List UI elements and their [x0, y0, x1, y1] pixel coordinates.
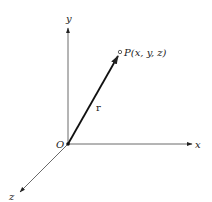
coordinate-diagram: y x z O r P(x, y, z) [0, 0, 212, 202]
point-p-marker [118, 50, 121, 53]
point-p-label: P(x, y, z) [123, 47, 167, 58]
origin-label: O [56, 139, 64, 150]
position-vector-r [68, 56, 118, 144]
origin-point [66, 142, 70, 146]
z-axis-label: z [8, 191, 15, 202]
vector-label: r [96, 102, 101, 113]
x-axis-label: x [195, 139, 201, 150]
z-axis [20, 144, 68, 192]
y-axis-label: y [65, 13, 72, 24]
